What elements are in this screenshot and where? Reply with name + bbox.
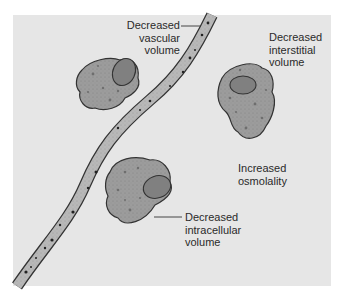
label-decreased-intracellular-volume: Decreased intracellular volume — [185, 211, 265, 249]
label-line: intracellular — [185, 224, 265, 237]
label-line: interstitial — [269, 44, 339, 57]
label-line: Increased — [238, 162, 318, 175]
label-line: vascular — [118, 32, 180, 45]
cell-right — [218, 64, 275, 138]
label-line: volume — [118, 44, 180, 57]
label-line: Decreased — [118, 19, 180, 32]
label-line: osmolality — [238, 175, 318, 188]
label-line: volume — [269, 56, 339, 69]
label-line: volume — [185, 236, 265, 249]
label-increased-osmolality: Increased osmolality — [238, 162, 318, 187]
cell-upper-left — [76, 55, 140, 110]
cell-lower-center — [106, 158, 174, 223]
label-line: Decreased — [185, 211, 265, 224]
label-decreased-vascular-volume: Decreased vascular volume — [118, 19, 180, 57]
label-decreased-interstitial-volume: Decreased interstitial volume — [269, 31, 339, 69]
blood-vessel — [17, 15, 212, 286]
label-line: Decreased — [269, 31, 339, 44]
